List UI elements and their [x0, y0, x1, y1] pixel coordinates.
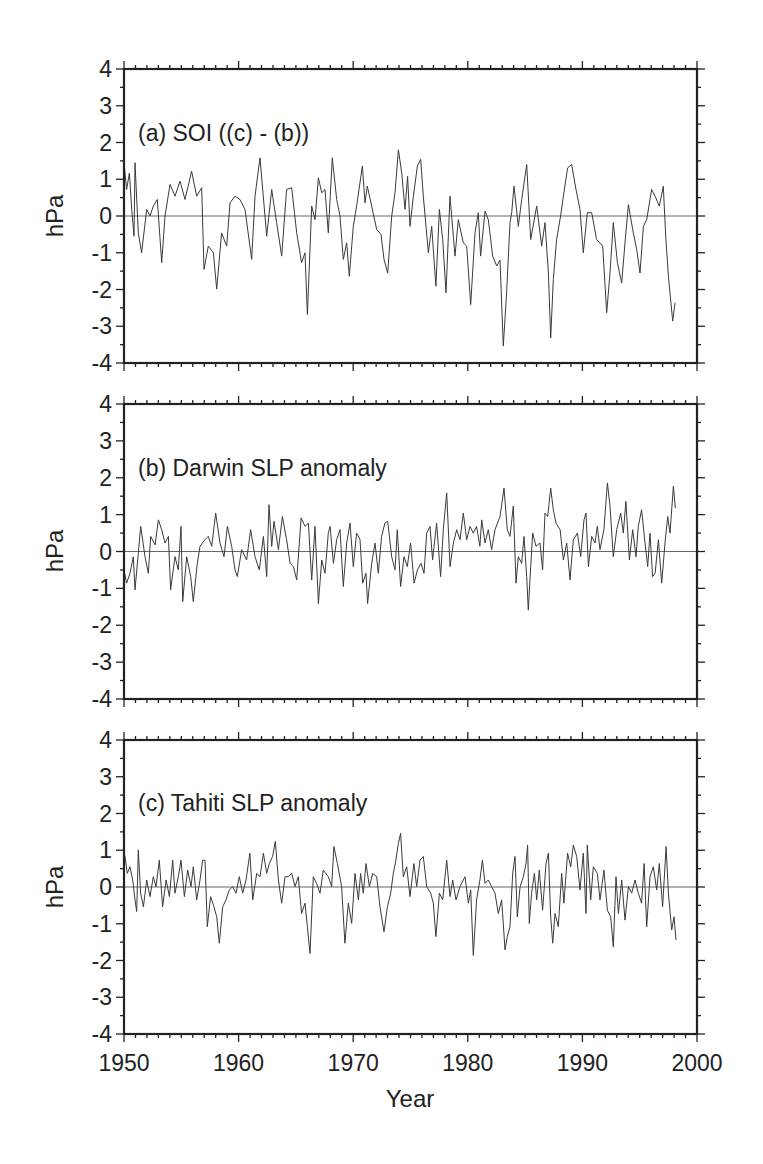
y-tick-label: 1: [99, 837, 112, 863]
y-tick-label: -1: [92, 575, 112, 601]
figure: (a) SOI ((c) - (b)) hPa 43210-1-2-3-4 (b…: [0, 0, 763, 1164]
panel-a-ylabel: hPa: [41, 194, 68, 237]
y-tick-label: 3: [99, 428, 112, 454]
panel-c-ylabel: hPa: [41, 865, 68, 908]
x-tick-1970: 1970: [328, 1050, 379, 1076]
panel-c-title: (c) Tahiti SLP anomaly: [138, 790, 368, 816]
y-tick-label: -2: [92, 612, 112, 638]
x-axis-title: Year: [386, 1085, 435, 1112]
y-tick-label: 3: [99, 93, 112, 119]
y-tick-label: -4: [92, 350, 113, 376]
y-tick-label: -4: [92, 1021, 113, 1047]
x-tick-1990: 1990: [557, 1050, 608, 1076]
background: [0, 0, 763, 1164]
panel-b-ylabel: hPa: [41, 529, 68, 572]
y-tick-label: 0: [99, 539, 112, 565]
y-tick-label: 3: [99, 764, 112, 790]
y-tick-label: 2: [99, 130, 112, 156]
y-tick-label: -1: [92, 240, 112, 266]
y-tick-label: 1: [99, 502, 112, 528]
y-tick-label: 1: [99, 166, 112, 192]
y-tick-label: 0: [99, 203, 112, 229]
x-tick-1960: 1960: [213, 1050, 264, 1076]
x-tick-1980: 1980: [442, 1050, 493, 1076]
y-tick-label: -4: [92, 686, 113, 712]
y-tick-label: 4: [99, 56, 112, 82]
panel-a-title: (a) SOI ((c) - (b)): [138, 120, 309, 146]
y-tick-label: -2: [92, 948, 112, 974]
y-tick-label: 0: [99, 874, 112, 900]
y-tick-label: -3: [92, 649, 112, 675]
y-tick-label: 4: [99, 727, 112, 753]
x-tick-2000: 2000: [671, 1050, 722, 1076]
y-tick-label: -3: [92, 313, 112, 339]
y-tick-label: 2: [99, 801, 112, 827]
panel-b-title: (b) Darwin SLP anomaly: [138, 455, 387, 481]
x-tick-1950: 1950: [98, 1050, 149, 1076]
y-tick-label: -3: [92, 984, 112, 1010]
y-tick-label: -2: [92, 277, 112, 303]
y-tick-label: 2: [99, 465, 112, 491]
y-tick-label: -1: [92, 911, 112, 937]
y-tick-label: 4: [99, 391, 112, 417]
